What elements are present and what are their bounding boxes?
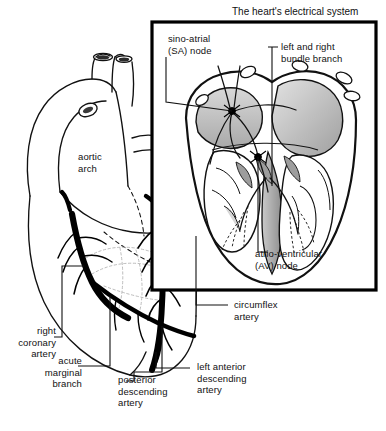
leader-lad [156,352,190,368]
fat-web-1 [86,247,152,258]
label-left-and-right-bundle-branch: left and right bundle branch [281,41,342,64]
aorta-ostium-inner [97,55,110,59]
rv-contour [116,92,128,186]
inset-left-atrium [272,80,343,157]
aorta-trunk [92,57,96,79]
marginal-twig-2 [138,314,144,342]
label-posterior-descending-artery: posterior descending artery [118,374,168,409]
pulmonary-trunk-left [112,57,115,92]
label-sino-atrial-node: sino-atrial (SA) node [168,33,212,56]
fat-web-4 [136,250,142,310]
rca-branch-4 [78,237,106,244]
hidden-contour-dashed [128,186,144,236]
label-aortic-arch: aortic arch [78,151,102,174]
aortic-arch-outline [27,79,116,196]
label-atrio-ventricular-node: atrio-ventricular (AV) node [255,248,322,271]
label-acute-marginal-branch: acute marginal branch [30,355,82,390]
label-left-anterior-descending-artery: left anterior descending artery [197,361,247,396]
inset-right-ventricle [204,151,260,253]
rca-branch-1 [58,232,76,258]
marginal-twig-1 [115,300,117,330]
label-circumflex-artery: circumflex artery [234,299,278,322]
great-vessel-right-wall [132,62,134,106]
leader-acute-marginal [78,296,110,366]
pulmonary-ostium-inner [119,58,129,62]
inset-title: The heart's electrical system [232,6,358,18]
rca-branch-5 [84,255,112,262]
right-coronary-artery-upper [62,192,70,210]
fat-web-2 [92,263,160,274]
figure-canvas: The heart's electrical system sino-atria… [0,0,386,431]
